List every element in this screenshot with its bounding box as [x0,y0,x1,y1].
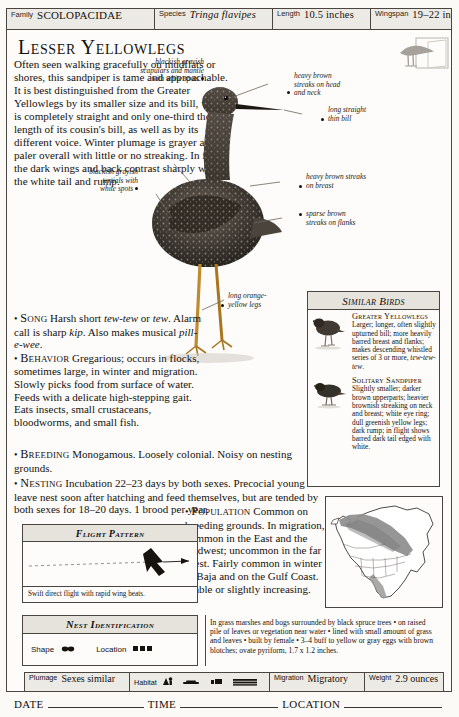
similar-birds-title: Similar Birds [308,292,439,310]
species-label: Species [159,9,186,18]
family-value: SCOLOPACIDAE [37,9,122,21]
species-value: Tringa flavipes [190,9,256,20]
flight-pattern-panel: Flight Pattern Swift direct flight with … [22,524,198,603]
plumage-label: Plumage [29,673,57,682]
status-weight: Weight 2.9 ounces [365,673,443,691]
greater-yellowlegs-icon [311,313,349,353]
date-input-line[interactable] [48,698,144,708]
section-body-population: Common on breeding grounds. In migration… [185,505,325,595]
bullet-marker: • [14,353,18,364]
similar-bird-desc: Slightly smaller; darker brown upperpart… [352,384,432,451]
weight-label: Weight [369,673,391,682]
time-label: TIME [148,698,176,710]
flight-pattern-caption: Swift direct flight with rapid wing beat… [23,587,197,602]
annotation-flanks: sparse brownstreaks on flanks [306,210,355,227]
bird-silhouette-icon [398,36,450,78]
range-map [325,496,443,608]
flight-pattern-title: Flight Pattern [23,525,197,542]
status-plumage: Plumage Sexes similar [25,673,130,691]
section-heading-behavior: Behavior [20,351,69,365]
habitat-label: Habitat [134,678,157,687]
wingspan-label: Wingspan [375,9,408,18]
section-song: • Song Harsh short tew-tew or tew. Alarm… [14,312,202,351]
annotation-bill: long straightthin bill [328,106,366,123]
annotation-tertials: blackish grayishtertials withwhite spots [8,168,138,194]
header-field-family: Family SCOLOPACIDAE [7,9,155,29]
nest-description: In grass marshes and bogs surrounded by … [205,615,440,666]
nest-location-icon [132,644,154,654]
section-population: • Population Common on breeding grounds.… [185,505,325,596]
similar-bird-desc: Larger; longer, often slightly upturned … [352,320,436,370]
annotation-head-neck: heavy brownstreaks on headand neck [294,72,340,98]
section-heading-population: Population [191,504,250,518]
nest-identification-panel: Nest Identification Shape Location [22,615,198,666]
annotation-legs: long orange-yellow legs [228,292,266,309]
status-bar: Plumage Sexes similar Habitat Migration … [24,672,444,692]
section-heading-nesting: Nesting [20,476,62,490]
date-label: DATE [14,698,44,710]
section-breeding: • Breeding Monogamous. Loosely colonial.… [14,448,314,474]
length-label: Length [277,9,300,18]
header-field-wingspan: Wingspan 19–22 inches [371,9,451,29]
annotation-scapulars: blackish grayishscapulars and mantlewith… [62,58,204,84]
bullet-marker: • [14,478,18,489]
observation-footer: DATE TIME LOCATION [14,698,446,714]
nest-location-label: Location [96,645,126,654]
similar-birds-panel: Similar Birds Greater Yellowlegs Larger;… [307,291,440,487]
weight-value: 2.9 ounces [395,673,438,684]
nest-identification-title: Nest Identification [23,616,197,634]
similar-bird-entry: Solitary Sandpiper Slightly smaller; dar… [308,371,439,452]
solitary-sandpiper-icon [311,377,349,417]
annotation-breast: heavy brown streakson breast [306,173,366,190]
length-value: 10.5 inches [304,9,354,20]
plumage-value: Sexes similar [61,673,115,684]
status-migration: Migration Migratory [270,673,365,691]
location-input-line[interactable] [344,698,442,708]
field-guide-page: Family SCOLOPACIDAE Species Tringa flavi… [0,0,459,717]
flight-pattern-diagram [23,542,197,587]
time-input-line[interactable] [180,698,278,708]
page-title: Lesser Yellowlegs [18,36,185,59]
section-behavior: • Behavior Gregarious; occurs in flocks,… [14,352,202,429]
wingspan-value: 19–22 inches [412,9,451,20]
header-field-species: Species Tringa flavipes [155,9,273,29]
bullet-marker: • [185,506,189,517]
habitat-icons [161,673,265,691]
nest-shape-label: Shape [31,645,54,654]
family-label: Family [11,10,33,19]
section-heading-song: Song [20,311,47,325]
bullet-marker: • [14,449,18,460]
species-header-bar: Family SCOLOPACIDAE Species Tringa flavi… [6,8,452,30]
location-label: LOCATION [282,698,340,710]
migration-value: Migratory [308,673,349,684]
section-heading-breeding: Breeding [20,447,69,461]
similar-bird-entry: Greater Yellowlegs Larger; longer, often… [308,310,439,371]
migration-label: Migration [274,673,304,682]
behavior-sections: • Song Harsh short tew-tew or tew. Alarm… [14,312,202,429]
status-habitat: Habitat [130,673,270,691]
header-field-length: Length 10.5 inches [273,9,371,29]
nest-shape-icon [60,644,76,654]
bullet-marker: • [14,313,18,324]
